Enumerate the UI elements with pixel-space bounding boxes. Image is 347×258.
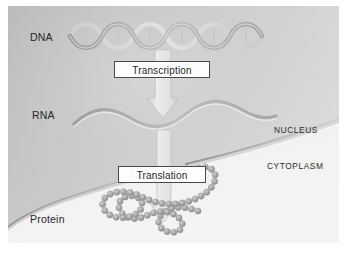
diagram-root: DNA RNA Protein NUCLEUS CYTOPLASM Transc… <box>0 0 347 258</box>
label-nucleus: NUCLEUS <box>274 126 318 134</box>
label-cytoplasm: CYTOPLASM <box>267 162 323 170</box>
process-box-translation: Translation <box>118 166 206 183</box>
label-dna: DNA <box>30 32 53 43</box>
process-box-transcription: Transcription <box>114 61 210 78</box>
central-dogma-illustration: DNA RNA Protein NUCLEUS CYTOPLASM Transc… <box>8 6 339 243</box>
label-protein: Protein <box>30 214 65 225</box>
label-rna: RNA <box>32 110 55 121</box>
